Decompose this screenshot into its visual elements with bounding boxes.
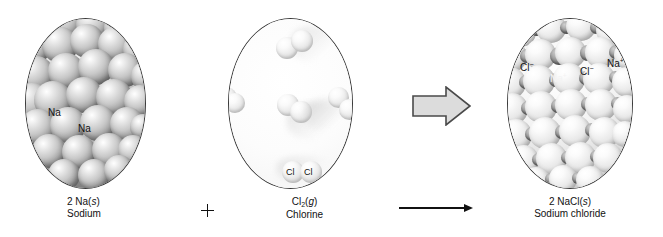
sodium-ion-label-1: Na+ bbox=[550, 74, 567, 84]
sodium-ion-label-2: Na+ bbox=[607, 59, 624, 69]
sodium-atom-label-2: Na bbox=[78, 124, 91, 134]
chlorine-caption: Cl2(g) Chlorine bbox=[272, 196, 337, 221]
sodium-caption: 2 Na(s) Sodium bbox=[67, 196, 101, 220]
sodium-sphere-view: Na Na bbox=[25, 18, 146, 189]
sodium-atom-label-1: Na bbox=[48, 108, 61, 118]
chlorine-atom-label-2: Cl bbox=[304, 168, 313, 177]
sodium-chloride-name: Sodium chloride bbox=[516, 208, 624, 220]
sodium-chloride-sphere-view: Cl− Na+ Cl− Na+ bbox=[507, 18, 633, 189]
yields-arrow-icon bbox=[399, 203, 473, 213]
chloride-ion-label-1: Cl− bbox=[520, 63, 534, 73]
chlorine-name: Chlorine bbox=[272, 209, 337, 221]
plus-operator bbox=[201, 204, 214, 217]
chloride-ion-label-2: Cl− bbox=[580, 67, 594, 77]
chlorine-atom-label-1: Cl bbox=[286, 168, 295, 177]
sodium-chloride-caption: 2 NaCl(s) Sodium chloride bbox=[516, 196, 624, 220]
sodium-formula: 2 Na(s) bbox=[67, 196, 100, 207]
chlorine-formula: Cl2(g) bbox=[292, 196, 318, 207]
sodium-chloride-formula: 2 NaCl(s) bbox=[549, 196, 591, 207]
chlorine-sphere-view: Cl Cl bbox=[228, 18, 353, 189]
reaction-diagram: Na Na 2 Na(s) Sodium bbox=[0, 0, 663, 237]
transform-arrow-icon bbox=[412, 86, 471, 126]
sodium-name: Sodium bbox=[67, 208, 101, 220]
